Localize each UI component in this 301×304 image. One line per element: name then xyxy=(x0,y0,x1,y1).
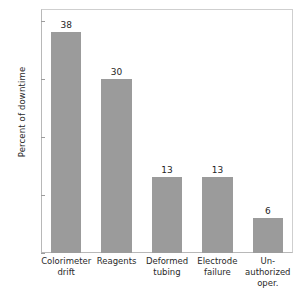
x-axis-category-label: Un-authorizedoper. xyxy=(243,256,293,289)
x-axis-category-label: Colorimeterdrift xyxy=(41,256,91,278)
x-label-line: authorized xyxy=(243,267,293,278)
x-axis-category-label: Reagents xyxy=(91,256,141,267)
bar-group: 38 xyxy=(51,9,81,253)
bar-value-label: 30 xyxy=(101,67,131,77)
x-label-line: tubing xyxy=(142,267,192,278)
bar xyxy=(202,177,232,253)
bar xyxy=(253,218,283,253)
bar xyxy=(152,177,182,253)
bar-group: 30 xyxy=(101,9,131,253)
bar-group: 13 xyxy=(152,9,182,253)
bar-value-label: 13 xyxy=(152,165,182,175)
x-label-line: Colorimeter xyxy=(41,256,91,267)
x-label-line: oper. xyxy=(243,278,293,289)
x-axis-labels: ColorimeterdriftReagentsDeformedtubingEl… xyxy=(41,256,293,304)
x-axis-category-label: Deformedtubing xyxy=(142,256,192,278)
bar xyxy=(51,32,81,253)
y-axis-title: Percent of downtime xyxy=(17,37,27,187)
x-label-line: Deformed xyxy=(142,256,192,267)
x-label-line: drift xyxy=(41,267,91,278)
bar-value-label: 13 xyxy=(202,165,232,175)
bar-group: 6 xyxy=(253,9,283,253)
bar-value-label: 38 xyxy=(51,20,81,30)
x-label-line: Un- xyxy=(243,256,293,267)
y-tick-mark xyxy=(41,253,45,254)
bar xyxy=(101,79,131,253)
bar-chart: Percent of downtime 010203040 383013136 … xyxy=(0,0,301,304)
x-axis-category-label: Electrodefailure xyxy=(192,256,242,278)
bar-value-label: 6 xyxy=(253,206,283,216)
x-label-line: Electrode xyxy=(192,256,242,267)
bars-layer: 383013136 xyxy=(41,9,293,253)
x-label-line: Reagents xyxy=(91,256,141,267)
bar-group: 13 xyxy=(202,9,232,253)
x-label-line: failure xyxy=(192,267,242,278)
